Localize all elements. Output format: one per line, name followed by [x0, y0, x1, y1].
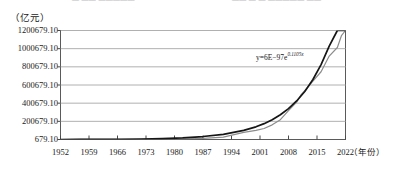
- chart-figure: — —— ————— —— — — ————— —— （亿元） （年份） 679…: [0, 0, 395, 169]
- equation-mid: 97e: [277, 53, 288, 62]
- x-axis-tick-label: 2022: [326, 147, 366, 157]
- y-axis-tick-label: 1000679.10: [1, 44, 58, 53]
- y-axis-tick-label: 1200679.10: [1, 26, 58, 35]
- equation-exponent: 0.1105x: [287, 51, 303, 57]
- y-axis-tick-label: 679.10: [1, 135, 58, 144]
- y-axis-tick-label: 200679.10: [1, 117, 58, 126]
- y-axis-tick-label: 400679.10: [1, 99, 58, 108]
- y-axis-tick-label: 800679.10: [1, 62, 58, 71]
- equation-prefix: y=6E: [256, 53, 272, 62]
- trendline-equation-annotation: y=6E−97e0.1105x: [256, 50, 304, 62]
- plot-canvas: [0, 0, 395, 169]
- y-axis-tick-label: 600679.10: [1, 81, 58, 90]
